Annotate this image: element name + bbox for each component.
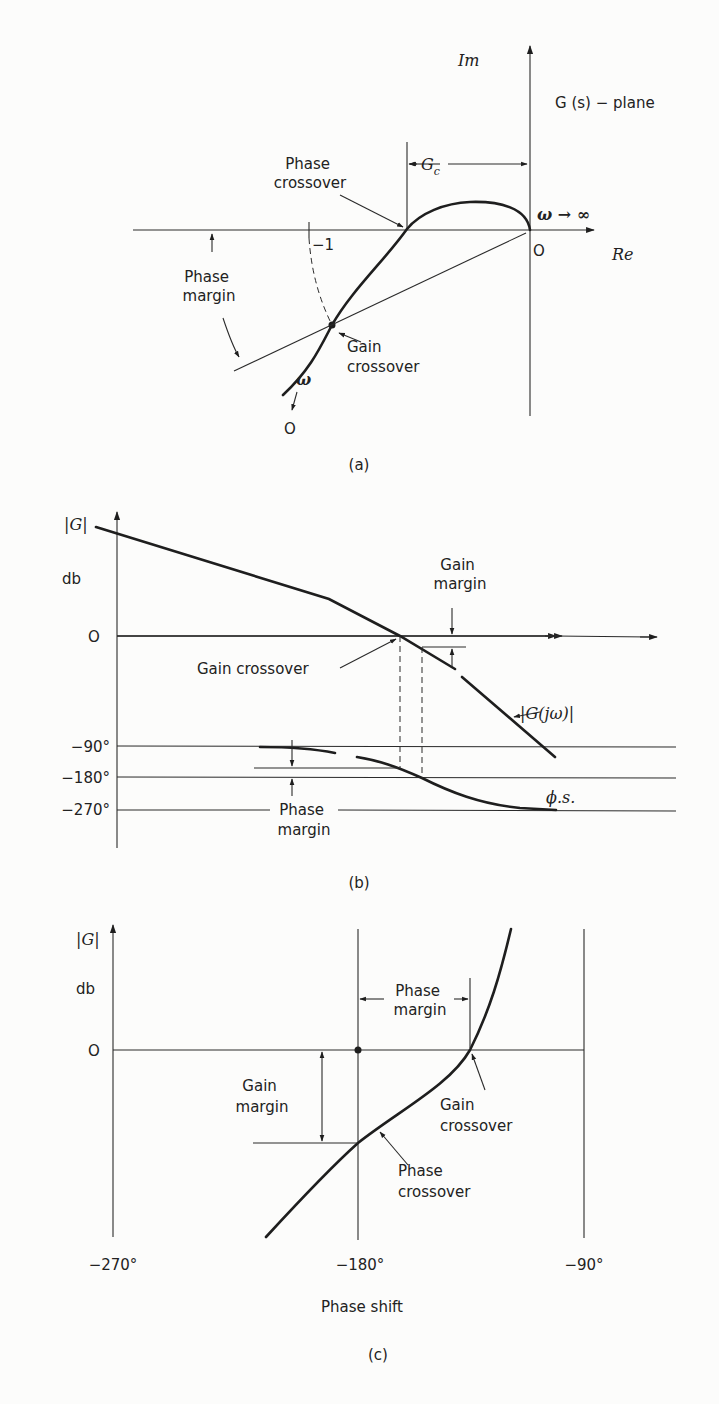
caption-b: (b)	[348, 874, 369, 892]
b-gain-crossover-leader	[340, 639, 396, 668]
c-locus-curve	[266, 929, 511, 1237]
c-db-label: db	[76, 980, 95, 998]
omega-direction-arrow	[292, 392, 297, 410]
gain-crossover-label-a: Gain crossover	[347, 338, 420, 376]
plane-label: G (s) − plane	[555, 94, 655, 112]
b-phase-label: ϕ.s.	[546, 788, 575, 807]
b-line-270-right	[338, 810, 676, 811]
phase-curve	[260, 747, 335, 753]
panel-b-bode-plot: |G| db O −90° −180° −270° Gain margin Ga…	[61, 512, 676, 892]
phase-margin-arc-leader	[223, 318, 239, 357]
c-gc-leader	[472, 1054, 485, 1090]
phase-crossover-leader-a	[340, 195, 403, 227]
c-pc-leader	[380, 1132, 408, 1165]
origin-label: O	[533, 242, 545, 260]
phase-crossover-label-a: Phase crossover	[274, 155, 347, 192]
b-tick-180: −180°	[61, 769, 110, 787]
b-tick-90: −90°	[71, 738, 110, 756]
c-phase-crossover-label: Phase crossover	[398, 1162, 471, 1201]
c-tick-270: −270°	[89, 1256, 138, 1274]
omega-label: ω	[296, 370, 311, 389]
c-x-label: Phase shift	[321, 1298, 403, 1316]
b-phase-margin-label: Phase margin	[278, 801, 331, 839]
omega-inf-label: ω → ∞	[537, 205, 590, 224]
phase-curve-2	[357, 757, 556, 810]
b-gain-crossover-label: Gain crossover	[197, 660, 309, 678]
caption-c: (c)	[368, 1346, 388, 1364]
im-axis-label: Im	[457, 51, 480, 70]
minus-one-label: −1	[312, 236, 334, 254]
b-db-label: db	[62, 570, 81, 588]
omega-zero-label: O	[284, 420, 296, 438]
c-y-label: |G|	[76, 930, 100, 949]
b-zero-label: O	[88, 628, 100, 646]
b-magnitude-label: |G(jω)|	[520, 704, 574, 723]
panel-c-gain-phase-plot: |G| db O Phase margin Gain margin Gain c…	[76, 925, 604, 1364]
stability-margins-figure: Im Re O G (s) − plane −1 Gc Phase crosso…	[0, 0, 719, 1404]
c-gain-margin-label: Gain margin	[236, 1077, 289, 1116]
phase-margin-label-a: Phase margin	[183, 268, 236, 305]
c-gain-crossover-label: Gain crossover	[440, 1096, 513, 1135]
c-zero-label: O	[88, 1042, 100, 1060]
c-tick-90: −90°	[564, 1256, 603, 1274]
b-y-label: |G|	[64, 515, 88, 534]
c-critical-point	[355, 1047, 362, 1054]
b-line-180	[117, 777, 676, 778]
c-tick-180: −180°	[336, 1256, 385, 1274]
magnitude-curve	[96, 527, 455, 669]
caption-a: (a)	[349, 456, 370, 474]
re-axis-label: Re	[611, 245, 634, 264]
b-tick-270: −270°	[61, 801, 110, 819]
b-gain-margin-label: Gain margin	[434, 556, 487, 593]
panel-a-nyquist-plot: Im Re O G (s) − plane −1 Gc Phase crosso…	[133, 46, 655, 474]
b-zero-line-right	[555, 636, 650, 637]
gc-label: Gc	[421, 155, 440, 178]
b-line-90	[117, 746, 676, 747]
c-phase-margin-label: Phase margin	[394, 982, 447, 1019]
